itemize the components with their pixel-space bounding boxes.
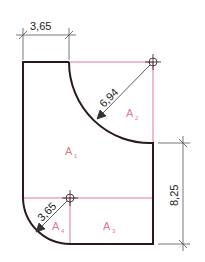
svg-text:A: A bbox=[126, 107, 134, 119]
svg-text:4: 4 bbox=[61, 228, 65, 234]
area-label-a2: A 2 bbox=[126, 107, 139, 121]
area-label-a1: A 1 bbox=[65, 145, 78, 159]
area-label-a4: A 4 bbox=[52, 220, 65, 234]
svg-text:2: 2 bbox=[135, 115, 139, 121]
dimension-right-value: 8,25 bbox=[168, 185, 180, 206]
area-decomposition-drawing: 3,65 6,94 3,65 8,25 A 1 A 2 A 3 A 4 bbox=[0, 0, 205, 262]
svg-text:A: A bbox=[52, 220, 60, 232]
dimension-radius-upper-value: 6,94 bbox=[97, 86, 121, 110]
svg-text:A: A bbox=[65, 145, 73, 157]
dimension-top bbox=[16, 28, 76, 60]
area-label-a3: A 3 bbox=[103, 220, 116, 234]
svg-text:3: 3 bbox=[112, 228, 116, 234]
svg-text:A: A bbox=[103, 220, 111, 232]
svg-text:1: 1 bbox=[74, 153, 78, 159]
dimension-top-value: 3,65 bbox=[30, 20, 51, 32]
